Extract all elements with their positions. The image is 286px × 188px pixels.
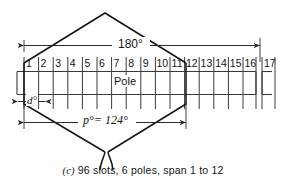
slot-number: 16 [244,57,256,69]
slot-number: 9 [143,57,149,69]
slot-number: 5 [84,57,90,69]
slot-angle-label: d° [26,94,38,106]
slot-number-layer: 1 2 3 4 5 6 7 8 9 10 11 12 13 14 15 16 1… [0,0,286,188]
slot-number: 6 [99,57,105,69]
slot-number: 4 [70,57,76,69]
slot-number: 11 [172,57,183,69]
coil-span-label: p°= 124° [80,113,131,128]
caption-text: 96 slots, 6 poles, span 1 to 12 [78,164,224,176]
caption-index: (c) [62,165,74,176]
slot-number: 12 [186,57,198,69]
pole-label: Pole [112,75,138,87]
figure-caption: (c) 96 slots, 6 poles, span 1 to 12 [0,164,286,176]
slot-number: 13 [201,57,213,69]
slot-number: 7 [114,57,120,69]
figure-canvas: 1 2 3 4 5 6 7 8 9 10 11 12 13 14 15 16 1… [0,0,286,188]
slot-number: 1 [26,57,32,69]
slot-number: 10 [156,57,168,69]
slot-number: 8 [128,57,134,69]
pole-pitch-label: 180° [115,37,146,51]
slot-number: 2 [41,57,47,69]
slot-number: 14 [215,57,227,69]
slot-number: 3 [55,57,61,69]
slot-number: 15 [230,57,242,69]
slot-number: 17 [264,57,276,69]
